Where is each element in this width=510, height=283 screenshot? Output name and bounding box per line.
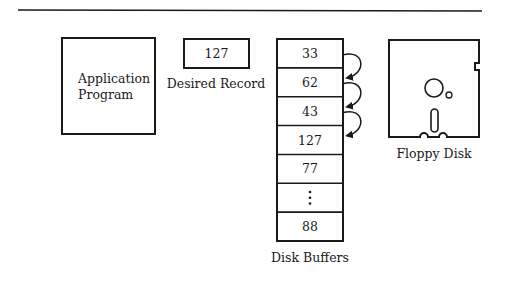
buffer-cell-value: 33	[302, 46, 318, 61]
disk-buffers: Disk Buffers 3362431277788	[271, 39, 361, 265]
floppy-disk-outline	[389, 40, 479, 137]
buffer-ellipsis-dot	[309, 196, 312, 199]
floppy-hub-hole	[425, 79, 443, 97]
floppy-disk-label: Floppy Disk	[396, 146, 472, 161]
buffer-link-arrow	[343, 54, 361, 78]
application-program: Application Program	[62, 38, 155, 134]
floppy-head-slot	[431, 109, 438, 132]
buffer-link-arrow	[343, 83, 361, 107]
buffer-link-arrow	[343, 112, 361, 136]
desired-record-label: Desired Record	[167, 76, 266, 91]
top-rule	[18, 10, 482, 11]
buffer-cell-value: 43	[302, 104, 318, 119]
application-label-line2: Program	[78, 87, 133, 102]
buffer-cell-value: 88	[302, 219, 318, 234]
desired-record: 127 Desired Record	[167, 39, 266, 91]
floppy-index-hole	[446, 92, 452, 98]
floppy-disk: Floppy Disk	[389, 40, 479, 161]
buffer-cell-value: 62	[302, 75, 318, 90]
disk-buffers-label: Disk Buffers	[271, 250, 349, 265]
buffer-ellipsis-dot	[309, 202, 312, 205]
buffer-cell-value: 77	[302, 161, 318, 176]
application-label-line1: Application	[77, 71, 150, 86]
application-box	[62, 38, 155, 134]
diagram-canvas: Application Program 127 Desired Record D…	[0, 0, 510, 283]
buffer-cell-value: 127	[298, 133, 322, 148]
desired-record-value: 127	[205, 46, 229, 61]
buffer-ellipsis-dot	[309, 191, 312, 194]
